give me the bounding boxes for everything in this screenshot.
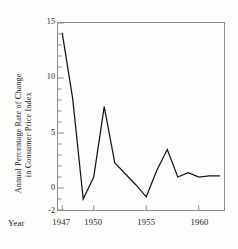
y-tick-label: 15 <box>33 18 55 26</box>
y-axis-title-line-1: Annual Percentage Rate of Change <box>15 73 23 193</box>
y-tick-label: 10 <box>33 73 55 81</box>
y-tick-marks <box>58 23 64 210</box>
chart-figure: Annual Percentage Rate of Change in Cons… <box>0 0 238 249</box>
y-tick-label: -2 <box>33 207 55 215</box>
y-tick-label: 0 <box>33 184 55 192</box>
y-tick-label: 5 <box>33 129 55 137</box>
plot-svg <box>58 23 224 210</box>
data-line-series-1 <box>62 33 220 199</box>
x-tick-label: 1960 <box>179 218 219 227</box>
x-axis-tick-labels: 1947195019551960 <box>0 218 238 236</box>
y-axis-tick-labels: 151050-2 <box>31 0 55 249</box>
x-tick-marks <box>62 205 199 210</box>
plot-area <box>57 22 225 211</box>
x-tick-label: 1955 <box>126 218 166 227</box>
x-tick-label: 1950 <box>73 218 113 227</box>
